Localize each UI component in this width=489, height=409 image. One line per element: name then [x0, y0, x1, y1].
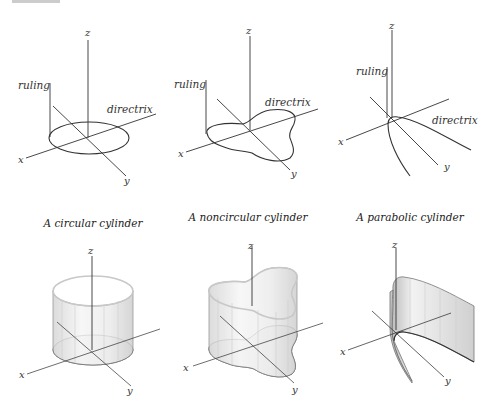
directrix-label: directrix	[265, 96, 311, 108]
x-axis-label: x	[183, 362, 189, 373]
y-axis-label: y	[123, 175, 130, 186]
panel-noncircular-directrix: z x y ruling directrix	[174, 25, 318, 179]
z-axis-label: z	[388, 20, 395, 31]
z-axis-label: z	[391, 239, 398, 250]
caption: A parabolic cylinder	[355, 211, 464, 223]
x-axis-label: x	[178, 148, 184, 159]
x-axis-label: x	[18, 154, 24, 165]
top-rim	[53, 276, 133, 306]
y-axis-label: y	[443, 161, 450, 172]
y-axis-label: y	[126, 385, 133, 396]
x-axis-label: x	[19, 369, 25, 380]
directrix-curve	[207, 110, 295, 161]
cylinder-surface	[392, 277, 474, 381]
cylinder-surface	[209, 268, 297, 377]
panel-circular-cylinder: A circular cylinder z x y	[19, 217, 160, 396]
x-axis	[26, 114, 156, 158]
z-axis-label: z	[245, 25, 252, 36]
panel-circular-directrix: z x y ruling directrix	[18, 27, 156, 186]
caption: A circular cylinder	[42, 217, 143, 229]
y-axis	[53, 106, 126, 176]
ruling-label: ruling	[174, 78, 206, 90]
y-axis-label: y	[290, 168, 297, 179]
z-axis-label: z	[247, 240, 254, 251]
cropped-text-fragment	[12, 0, 60, 3]
ruling-label: ruling	[356, 65, 388, 77]
directrix-label: directrix	[432, 114, 478, 126]
x-axis-label: x	[340, 346, 346, 357]
x-axis-label: x	[338, 136, 344, 147]
panel-noncircular-cylinder: A noncircular cylinder z x y	[183, 211, 323, 395]
directrix-label: directrix	[107, 103, 153, 115]
panel-parabolic-directrix: z x y ruling directrix	[338, 20, 478, 176]
y-axis-label: y	[444, 375, 451, 386]
z-axis-label: z	[84, 27, 91, 38]
cylinders-figure: z x y ruling directrix z x y ruling dire…	[0, 0, 489, 409]
ruling-label: ruling	[18, 79, 50, 91]
y-axis-label: y	[291, 384, 298, 395]
panel-parabolic-cylinder: A parabolic cylinder z x y	[340, 211, 474, 386]
caption: A noncircular cylinder	[188, 211, 309, 223]
z-axis-label: z	[87, 245, 94, 256]
